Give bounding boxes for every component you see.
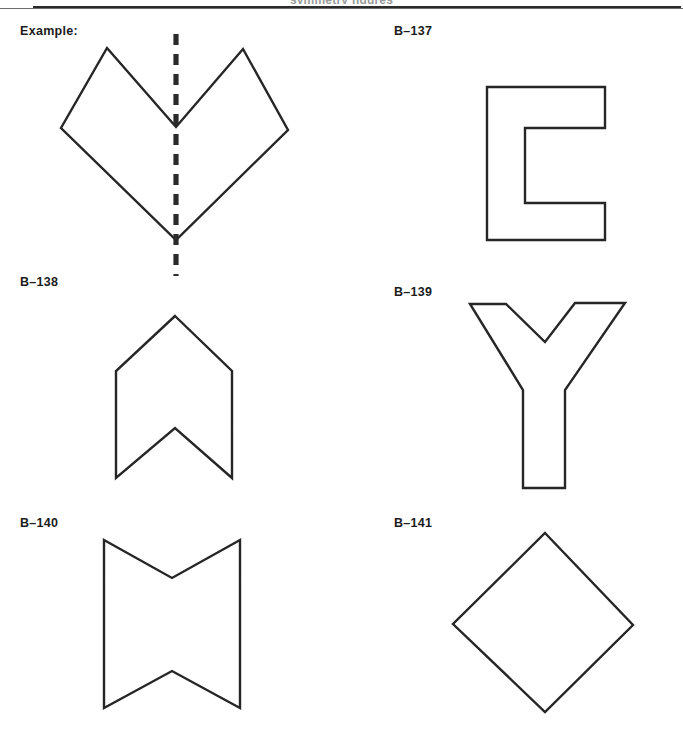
figure-diamond-rhombus	[0, 0, 683, 739]
shape-outline-b141	[453, 533, 633, 712]
worksheet-page: symmetry figures Example: B–137 B–138 B–…	[0, 0, 683, 739]
